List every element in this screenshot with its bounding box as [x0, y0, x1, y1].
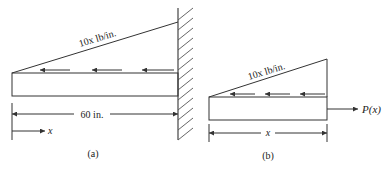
caption-b: (b) [262, 150, 274, 162]
fixed-wall [178, 8, 193, 140]
load-label-a: 10x lb/in. [77, 27, 117, 49]
force-label-b: P(x) [361, 103, 381, 116]
wall-hatching [178, 8, 193, 140]
figure-a: 10x lb/in. 60 in. x (a) [12, 8, 193, 160]
length-label-b: x [265, 127, 271, 138]
figure-b: 10x lb/in. P(x) x (b) [209, 59, 381, 162]
beam-b [209, 97, 327, 120]
caption-a: (a) [87, 148, 98, 160]
axis-label-a: x [47, 125, 53, 136]
load-triangle-a [12, 22, 178, 73]
length-label-a: 60 in. [81, 109, 104, 120]
beam-a [12, 73, 178, 96]
diagram-canvas: 10x lb/in. 60 in. x (a) 10x lb/in. P(x) … [0, 0, 388, 169]
